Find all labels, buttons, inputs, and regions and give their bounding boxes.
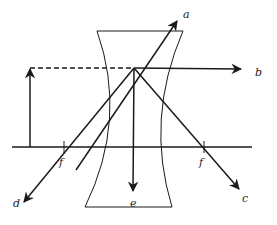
- ray-e: [133, 68, 134, 191]
- label-f-left: f: [58, 156, 65, 169]
- label-f-right: f: [198, 156, 205, 169]
- label-a: a: [183, 8, 190, 21]
- label-c: c: [242, 192, 248, 205]
- ray-c: [134, 68, 239, 189]
- ray-d: [24, 68, 134, 202]
- ray-b: [134, 68, 241, 69]
- ray-diagram: a b c d e f f: [0, 0, 277, 225]
- label-d: d: [13, 197, 20, 210]
- label-b: b: [255, 66, 262, 79]
- rays: [24, 21, 241, 202]
- label-e: e: [130, 197, 137, 210]
